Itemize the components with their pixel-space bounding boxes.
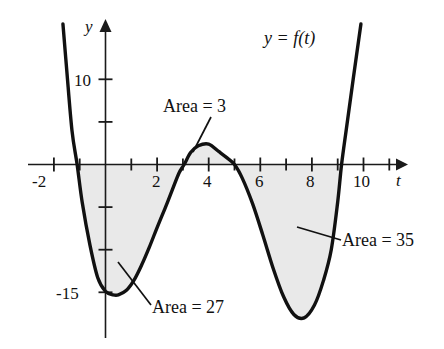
x-tick-label-6: 6 [255,173,264,190]
annotation-area-3: Area = 3 [163,97,226,115]
shaded-region-area-35 [234,162,342,319]
y-tick-label--15: -15 [56,285,79,302]
x-tick-label-4: 4 [203,173,212,190]
function-label: y = f(t) [264,29,315,47]
x-tick-label-8: 8 [306,173,315,190]
t-axis-label: t [396,172,401,189]
x-tick-label-2: 2 [152,173,161,190]
shaded-region-area-27 [77,162,185,296]
y-axis-label: y [85,18,93,35]
x-tick-label-10: 10 [353,173,370,190]
y-axis-arrowhead [100,19,112,32]
annotation-area-27: Area = 27 [152,298,224,316]
annotation-area-35: Area = 35 [342,231,414,249]
y-tick-label-10: 10 [74,72,91,89]
figure-root: y t y = f(t) -2 2 4 6 8 10 10 -15 Area =… [0,0,444,349]
t-axis-arrowhead [396,159,408,171]
x-tick-label--2: -2 [32,173,46,190]
